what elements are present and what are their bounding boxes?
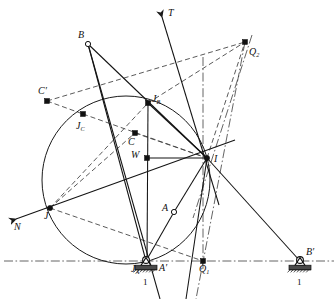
- point-marker-Q2: [243, 40, 248, 45]
- JA-to-A: [146, 212, 174, 261]
- label-Q2: Q2: [249, 47, 259, 57]
- label-axis-T: T: [168, 8, 174, 18]
- label-JB: JB: [152, 94, 160, 104]
- J-to-Q1: [50, 208, 203, 261]
- ground-label-ground-left: 1: [143, 278, 148, 287]
- Cp-to-JC: [47, 101, 83, 114]
- label-C: C: [128, 137, 135, 147]
- point-marker-A: [171, 209, 176, 214]
- point-marker-I: [204, 155, 209, 160]
- label-B: B: [78, 30, 84, 40]
- point-markers-layer: [45, 40, 311, 273]
- point-marker-W: [145, 156, 150, 161]
- T-axis: [162, 17, 219, 205]
- I-to-Bp: [207, 158, 300, 261]
- point-marker-Bp: [288, 257, 311, 273]
- label-axis-N: N: [14, 222, 21, 232]
- label-Q1: Q1: [199, 264, 209, 274]
- point-marker-J: [47, 205, 52, 210]
- frame-lines-layer: [4, 35, 334, 299]
- label-Ap: A′: [159, 263, 167, 273]
- JB-to-Q2: [148, 42, 245, 103]
- label-Cp: C′: [38, 86, 47, 96]
- label-A: A: [162, 203, 168, 213]
- label-I: I: [214, 154, 217, 164]
- JB-vert: [147, 103, 148, 261]
- point-marker-JC: [81, 112, 86, 117]
- label-Bp: B′: [306, 247, 314, 257]
- label-JC: JC: [76, 121, 85, 131]
- point-marker-Cp: [45, 99, 50, 104]
- point-marker-B: [85, 41, 90, 46]
- geometric-figure: BQ2C′JBJCCWIJAJAA′Q1B′TN11: [0, 0, 334, 299]
- label-J: J: [44, 211, 48, 221]
- I-ray-down: [186, 158, 207, 299]
- construction-lines-layer: [47, 42, 245, 261]
- label-W: W: [131, 150, 139, 160]
- ground-label-ground-right: 1: [297, 278, 302, 287]
- point-marker-C: [133, 131, 138, 136]
- label-JA: JA: [131, 264, 139, 274]
- A-to-I: [174, 158, 207, 212]
- point-marker-JB: [146, 101, 151, 106]
- diagram-canvas: [0, 0, 334, 299]
- Cp-to-Q2: [47, 42, 245, 101]
- mechanism-lines-layer: [16, 17, 300, 299]
- JB-to-I: [148, 103, 207, 158]
